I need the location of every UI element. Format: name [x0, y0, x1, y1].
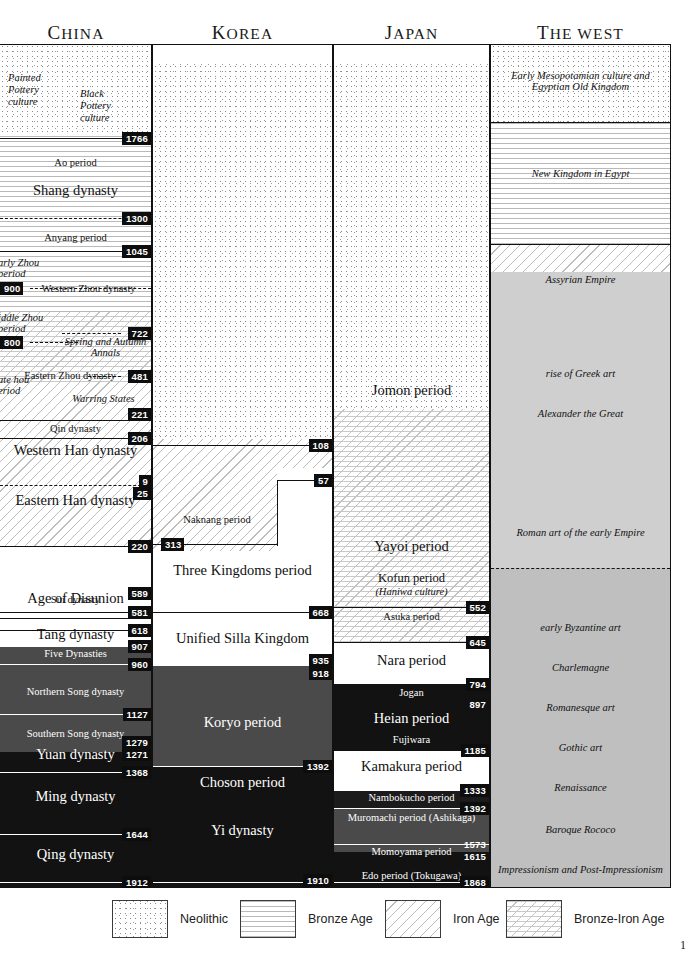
korea-era-top-blank: [153, 44, 332, 64]
china-qing-label: Qing dynasty: [0, 846, 151, 863]
china-ming-label: Ming dynasty: [0, 788, 151, 805]
west-rule-iron: [491, 244, 670, 245]
column-header-west: THE WEST: [490, 22, 671, 44]
japan-date-645: 645: [466, 636, 489, 649]
korea-silla-label: Unified Silla Kingdom: [153, 630, 332, 647]
legend-swatch-neolithic: [112, 900, 168, 938]
west-era-bronze: [491, 122, 670, 244]
column-header-korea: KOREA: [152, 22, 333, 44]
japan-date-794: 794: [466, 678, 489, 691]
china-anyang-label: Anyang period: [0, 232, 151, 243]
west-roman-label: Roman art of the early Empire: [491, 527, 670, 538]
japan-nara-label: Nara period: [334, 652, 489, 669]
japan-date-897: 897: [466, 698, 489, 711]
column-header-west-rest: HE WEST: [550, 25, 624, 42]
china-date-907: 907: [128, 640, 151, 653]
korea-date-935: 935: [309, 654, 332, 667]
china-era-iron: [0, 382, 151, 546]
column-header-japan-rest: APAN: [393, 25, 438, 42]
west-rule-bronze: [491, 122, 670, 123]
west-gothic-label: Gothic art: [491, 742, 670, 753]
korea-date-1910: 1910: [303, 874, 332, 887]
korea-era-neolithic: [153, 64, 332, 439]
china-date-206: 206: [128, 432, 151, 445]
legend-swatch-iron-age: [385, 900, 441, 938]
china-eastern-han-label: Eastern Han dynasty: [0, 492, 151, 509]
timeline-column-west: Early Mesopotamian culture and Egyptian …: [490, 44, 671, 888]
korea-yi-label: Yi dynasty: [153, 822, 332, 839]
column-header-west-cap: T: [537, 22, 550, 43]
china-date-589: 589: [128, 587, 151, 600]
korea-date-1392: 1392: [303, 760, 332, 773]
china-date-25: 25: [133, 487, 151, 500]
korea-naknang-vertical-rule: [277, 480, 278, 546]
column-header-japan-cap: J: [385, 22, 394, 43]
korea-naknang-label: Naknang period: [157, 514, 277, 525]
west-era-classical: [491, 272, 670, 568]
japan-date-1615: 1615: [460, 850, 489, 863]
west-mesopotamia-label: Early Mesopotamian culture and Egyptian …: [491, 70, 670, 92]
china-date-481: 481: [128, 370, 151, 383]
japan-jomon-label: Jomon period: [334, 382, 489, 399]
legend: Neolithic Bronze Age Iron Age Bronze-Iro…: [0, 900, 691, 946]
japan-date-1868: 1868: [460, 876, 489, 888]
west-charlemagne-label: Charlemagne: [491, 662, 670, 673]
japan-yayoi-label: Yayoi period: [334, 538, 489, 555]
japan-date-552: 552: [466, 601, 489, 614]
legend-swatch-bronze-iron-age: [506, 900, 562, 938]
west-impressionism-label: Impressionism and Post-Impressionism: [491, 864, 670, 875]
japan-date-1333: 1333: [460, 784, 489, 797]
china-date-220: 220: [128, 540, 151, 553]
korea-date-57: 57: [314, 474, 332, 487]
china-date-1912: 1912: [122, 876, 151, 888]
legend-item-iron-age: Iron Age: [385, 900, 500, 938]
column-header-korea-cap: K: [212, 22, 227, 43]
korea-date-313: 313: [161, 538, 184, 551]
japan-date-1185: 1185: [461, 744, 489, 757]
china-date-960: 960: [128, 658, 151, 671]
west-greek-label: rise of Greek art: [491, 368, 670, 379]
japan-heian-label: Heian period: [334, 710, 489, 727]
korea-choson-label: Choson period: [153, 774, 332, 791]
legend-item-bronze-age: Bronze Age: [240, 900, 373, 938]
china-date-618: 618: [128, 624, 151, 637]
japan-kofun-label: Kofun period: [334, 571, 489, 586]
timeline-chart: Painted Pottery culture Black Pottery cu…: [0, 44, 671, 888]
korea-koryo-label: Koryo period: [153, 714, 332, 731]
japan-date-1392: 1392: [460, 802, 489, 815]
column-header-japan: JAPAN: [333, 22, 490, 44]
west-rule-byzantine: [491, 568, 670, 569]
korea-rule-668: [153, 612, 332, 613]
west-romanesque-label: Romanesque art: [491, 702, 670, 713]
china-date-1368: 1368: [122, 766, 151, 779]
timeline-column-japan: Jomon period Yayoi period Kofun period (…: [333, 44, 490, 888]
china-date-800: 800: [0, 336, 23, 349]
korea-date-108: 108: [309, 439, 332, 452]
west-era-medieval-modern: [491, 568, 670, 888]
west-alexander-label: Alexander the Great: [491, 408, 670, 419]
china-western-zhou-label: Western Zhou dynasty: [28, 283, 149, 294]
korea-three-kingdoms-label: Three Kingdoms period: [153, 562, 332, 579]
west-renaissance-label: Renaissance: [491, 782, 670, 793]
china-period-black-pottery: Black Pottery culture: [0, 88, 151, 136]
japan-era-top-blank: [334, 44, 489, 64]
china-warring-states-label: Warring States: [62, 393, 145, 404]
japan-kofun-sub-label: (Haniwa culture): [334, 586, 489, 597]
china-rule-9-25: [0, 485, 151, 486]
legend-label-bronze-iron-age: Bronze-Iron Age: [574, 912, 664, 926]
china-middle-zhou-label: iddle Zhou period: [0, 312, 60, 334]
china-ao-label: Ao period: [0, 157, 151, 168]
china-early-zhou-label: arly Zhou period: [0, 257, 60, 279]
china-date-1766: 1766: [122, 132, 151, 145]
korea-date-918: 918: [309, 667, 332, 680]
china-date-1271: 1271: [122, 748, 151, 761]
korea-date-668: 668: [309, 606, 332, 619]
china-date-581: 581: [128, 606, 151, 619]
timeline-column-china: Painted Pottery culture Black Pottery cu…: [0, 44, 152, 888]
legend-swatch-bronze-age: [240, 900, 296, 938]
china-rule-481: [88, 376, 121, 377]
china-date-1300: 1300: [122, 212, 151, 225]
legend-label-iron-age: Iron Age: [453, 912, 500, 926]
china-date-900: 900: [0, 282, 23, 295]
west-baroque-label: Baroque Rococo: [491, 824, 670, 835]
